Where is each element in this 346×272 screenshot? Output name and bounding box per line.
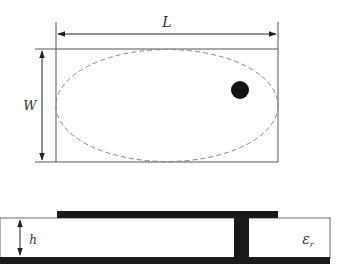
- microstrip-antenna-diagram: L W h εr: [0, 0, 346, 272]
- radiation-ellipse: [56, 50, 278, 162]
- top-view: L W: [23, 14, 278, 162]
- feed-probe: [234, 216, 249, 259]
- length-label: L: [161, 14, 171, 30]
- side-view: h εr: [0, 211, 330, 264]
- permittivity-symbol: ε: [302, 231, 310, 247]
- width-label: W: [23, 98, 38, 113]
- substrate: [0, 218, 330, 258]
- feed-point-icon: [231, 81, 249, 99]
- ground-plane: [0, 257, 330, 264]
- height-label: h: [29, 233, 37, 247]
